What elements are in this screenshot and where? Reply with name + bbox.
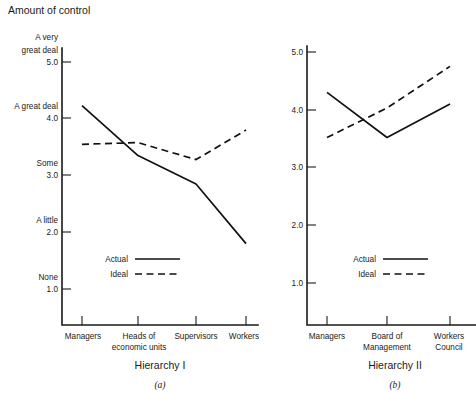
y-descriptor-4: A great deal xyxy=(14,102,58,111)
x-tick-label-council-line2: Council xyxy=(435,343,462,352)
y-tick-label-1: 1.0 xyxy=(292,279,304,288)
y-tick-label-4: 4.0 xyxy=(292,106,304,115)
y-axis-title: Amount of control xyxy=(8,4,90,16)
panel-b-title: Hierarchy II xyxy=(368,359,422,371)
x-tick-label-managers: Managers xyxy=(65,332,101,341)
x-tick-label-heads-line2: economic units xyxy=(112,343,167,352)
y-tick-label-5: 5.0 xyxy=(47,58,59,67)
legend-label-ideal: Ideal xyxy=(110,270,128,279)
x-tick-label-board-line2: Management xyxy=(363,343,412,352)
x-tick-label-board-line1: Board of xyxy=(372,332,404,341)
y-tick-label-3: 3.0 xyxy=(47,171,59,180)
y-descriptor-3: Some xyxy=(37,159,59,168)
y-tick-label-5: 5.0 xyxy=(292,48,304,57)
panel-a-letter: (a) xyxy=(154,380,165,391)
x-tick-label-council-line1: Workers xyxy=(434,332,464,341)
chart-svg: Amount of control 5.0 4.0 3.0 2.0 1.0 xyxy=(0,0,476,401)
x-tick-label-supervisors: Supervisors xyxy=(174,332,217,341)
panel-a-title: Hierarchy I xyxy=(135,359,186,371)
panel-b-letter: (b) xyxy=(389,380,400,391)
x-tick-label-workers: Workers xyxy=(229,332,259,341)
y-tick-label-4: 4.0 xyxy=(47,114,59,123)
x-tick-label-managers: Managers xyxy=(309,332,345,341)
y-descriptor-1: None xyxy=(38,273,58,282)
legend-label-ideal: Ideal xyxy=(358,270,376,279)
y-tick-label-2: 2.0 xyxy=(292,221,304,230)
figure-container: Amount of control 5.0 4.0 3.0 2.0 1.0 xyxy=(0,0,476,401)
legend-label-actual: Actual xyxy=(105,255,128,264)
legend-label-actual: Actual xyxy=(353,255,376,264)
y-descriptor-5-line2: great deal xyxy=(22,46,59,55)
y-descriptor-2: A little xyxy=(36,216,58,225)
y-tick-label-3: 3.0 xyxy=(292,163,304,172)
y-descriptor-5-line1: A very xyxy=(35,33,59,42)
y-tick-label-2: 2.0 xyxy=(47,228,59,237)
x-tick-label-heads-line1: Heads of xyxy=(123,332,156,341)
y-tick-label-1: 1.0 xyxy=(47,285,59,294)
